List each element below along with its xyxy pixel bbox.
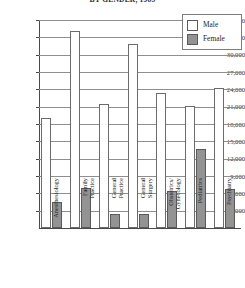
bar-male	[214, 88, 224, 228]
x-category-label: Psychiatry	[225, 178, 232, 232]
legend-label-male: Male	[203, 21, 218, 29]
bar-male	[41, 118, 51, 228]
bar-male	[99, 104, 109, 228]
chart-title: BY GENDER, 1985	[0, 0, 245, 4]
legend-swatch-male	[187, 20, 198, 31]
bar-male	[70, 31, 80, 228]
x-category-label: FamilyPractice	[81, 178, 95, 232]
legend-item-male: Male	[187, 18, 237, 32]
x-category-label: Obstetrics/Gynecology	[167, 178, 181, 232]
bar-male	[128, 44, 138, 228]
bar-male	[156, 93, 166, 228]
legend-swatch-female	[187, 34, 198, 45]
bar-chart: BY GENDER, 1985 36,00033,00030,00027,000…	[0, 0, 245, 288]
legend-item-female: Female	[187, 32, 237, 46]
x-category-label: GeneralSurgery	[139, 178, 153, 232]
x-category-label: Anesthesiology	[52, 178, 59, 232]
legend: Male Female	[182, 14, 242, 50]
x-category-label: GeneralPractice	[110, 178, 124, 232]
x-category-label: Pediatrics	[196, 178, 203, 232]
bar-male	[185, 106, 195, 228]
legend-label-female: Female	[203, 35, 225, 43]
